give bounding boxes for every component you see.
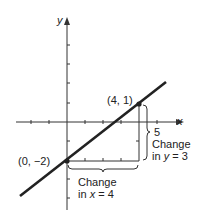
change-y-line1: Change [152,138,191,150]
change-x-brace [68,165,138,172]
x-axis-label: x [177,115,183,127]
change-x-line1: Change [78,176,117,188]
change-y-brace [143,105,150,160]
y-axis-label: y [57,14,63,26]
change-x-annotation: Change in x = 4 [78,176,117,200]
point-0-neg2 [64,158,69,163]
change-y-annotation: Change in y = 3 [152,138,191,162]
point-label-4-1: (4, 1) [107,94,133,106]
point-label-0-neg2: (0, −2) [18,155,50,167]
change-x-line2: in x = 4 [78,188,117,200]
change-y-line2: in y = 3 [152,150,191,162]
y-axis-arrow-icon [64,17,70,25]
point-4-1 [136,101,141,106]
x-tick-label-5: 5 [154,126,160,138]
